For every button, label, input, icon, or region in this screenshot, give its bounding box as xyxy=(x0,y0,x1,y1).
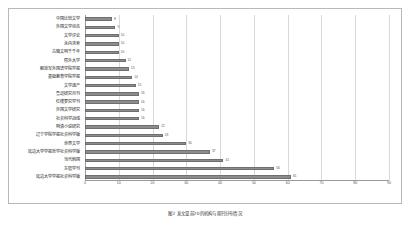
bar[interactable] xyxy=(85,134,163,137)
category-label: 当代韩国 xyxy=(64,158,80,162)
category-label: 延边大学学报社会科学版 xyxy=(36,175,80,179)
bar-row[interactable]: 15 xyxy=(85,84,389,87)
x-axis-line xyxy=(85,180,389,181)
bar-value-label: 16 xyxy=(141,117,145,120)
category-label: 文学遗产 xyxy=(64,84,80,88)
bar-value-label: 12 xyxy=(128,59,132,62)
bar-row[interactable]: 10 xyxy=(85,42,389,45)
bar-row[interactable]: 8 xyxy=(85,17,389,20)
category-label: 鲁迅研究月刊 xyxy=(56,92,80,96)
bar-row[interactable]: 41 xyxy=(85,159,389,162)
category-label: 延边大学学报哲学社会科学版 xyxy=(28,150,80,154)
x-tick-label: 70 xyxy=(319,182,323,186)
bar-value-label: 61 xyxy=(293,175,297,178)
category-label: 外国文学动态 xyxy=(56,25,80,29)
bar-value-label: 16 xyxy=(141,92,145,95)
x-tick-label: 50 xyxy=(252,182,256,186)
x-tick-label: 60 xyxy=(286,182,290,186)
bar-value-label: 13 xyxy=(131,67,135,70)
bar-row[interactable]: 12 xyxy=(85,59,389,62)
x-tick-label: 30 xyxy=(184,182,188,186)
bar[interactable] xyxy=(85,100,139,103)
x-tick-label: 90 xyxy=(387,182,391,186)
bar-value-label: 10 xyxy=(121,42,125,45)
category-label: 陨外大学 xyxy=(64,59,80,63)
bar[interactable] xyxy=(85,84,136,87)
category-label: 外国文学研究 xyxy=(56,108,80,112)
plot-area: 89101010121314151616161622233037415661 xyxy=(85,15,389,181)
category-label: 永内求索 xyxy=(64,42,80,46)
bar[interactable] xyxy=(85,175,291,178)
category-label: 文学评论 xyxy=(64,34,80,38)
bar-value-label: 15 xyxy=(138,84,142,87)
bar-row[interactable]: 16 xyxy=(85,100,389,103)
bar-value-label: 22 xyxy=(161,125,165,128)
x-tick-label: 40 xyxy=(218,182,222,186)
x-tick-label: 80 xyxy=(353,182,357,186)
bar-value-label: 37 xyxy=(212,150,216,153)
bar-row[interactable]: 61 xyxy=(85,175,389,178)
x-axis-tick-labels: 0102030405060708090 xyxy=(85,182,389,192)
bar-value-label: 10 xyxy=(121,51,125,54)
bar[interactable] xyxy=(85,42,119,45)
bar[interactable] xyxy=(85,34,119,37)
category-label: 明清小说研究 xyxy=(56,125,80,129)
bar[interactable] xyxy=(85,167,274,170)
figure: 中国比较文学外国文学动态文学评论永内求索古籍文明千千年陨外大学解放军外国语学院学… xyxy=(0,0,410,230)
bar[interactable] xyxy=(85,26,115,29)
category-label: 古籍文明千千年 xyxy=(52,50,80,54)
bar-row[interactable]: 9 xyxy=(85,26,389,29)
chart-frame: 中国比较文学外国文学动态文学评论永内求索古籍文明千千年陨外大学解放军外国语学院学… xyxy=(8,8,402,204)
bar-row[interactable]: 16 xyxy=(85,109,389,112)
bar[interactable] xyxy=(85,76,132,79)
category-label: 辽宁学院学报社会科学版 xyxy=(36,133,80,137)
bar-row[interactable]: 16 xyxy=(85,92,389,95)
bar-value-label: 56 xyxy=(276,167,280,170)
category-label: 东疆学刊 xyxy=(64,167,80,171)
bar-value-label: 23 xyxy=(165,134,169,137)
gridline xyxy=(389,15,390,181)
x-tick-label: 10 xyxy=(117,182,121,186)
bar-row[interactable]: 10 xyxy=(85,51,389,54)
bar-row[interactable]: 56 xyxy=(85,167,389,170)
bar-row[interactable]: 23 xyxy=(85,134,389,137)
bar-value-label: 30 xyxy=(188,142,192,145)
x-tick-label: 0 xyxy=(84,182,86,186)
bar[interactable] xyxy=(85,51,119,54)
bar[interactable] xyxy=(85,92,139,95)
bar-row[interactable]: 13 xyxy=(85,67,389,70)
bar-row[interactable]: 22 xyxy=(85,125,389,128)
bar-value-label: 10 xyxy=(121,34,125,37)
category-label: 社会科学战线 xyxy=(56,117,80,121)
category-label: 解放军外国语学院学报 xyxy=(40,67,80,71)
bar[interactable] xyxy=(85,125,159,128)
bar-row[interactable]: 14 xyxy=(85,76,389,79)
bar-value-label: 8 xyxy=(114,18,116,21)
bar-value-label: 16 xyxy=(141,109,145,112)
bar-value-label: 16 xyxy=(141,101,145,104)
bar[interactable] xyxy=(85,150,210,153)
category-label: 世界文学 xyxy=(64,142,80,146)
x-tick-label: 20 xyxy=(151,182,155,186)
bar-row[interactable]: 30 xyxy=(85,142,389,145)
bar-value-label: 41 xyxy=(225,159,229,162)
bar[interactable] xyxy=(85,142,186,145)
bar[interactable] xyxy=(85,17,112,20)
bar[interactable] xyxy=(85,67,129,70)
bar-row[interactable]: 10 xyxy=(85,34,389,37)
bar[interactable] xyxy=(85,109,139,112)
category-axis-labels: 中国比较文学外国文学动态文学评论永内求索古籍文明千千年陨外大学解放军外国语学院学… xyxy=(9,15,83,181)
category-label: 中国比较文学 xyxy=(56,17,80,21)
bar-value-label: 9 xyxy=(117,26,119,29)
bar[interactable] xyxy=(85,117,139,120)
figure-caption: 图2 发文量前20的机构与期刊分布情况 xyxy=(0,210,410,216)
bar-series: 89101010121314151616161622233037415661 xyxy=(85,15,389,181)
category-label: 基础教育学院学报 xyxy=(48,75,80,79)
bar-row[interactable]: 16 xyxy=(85,117,389,120)
bar[interactable] xyxy=(85,59,126,62)
category-label: 红楼梦究学刊 xyxy=(56,100,80,104)
bar[interactable] xyxy=(85,159,223,162)
bar-row[interactable]: 37 xyxy=(85,150,389,153)
bar-value-label: 14 xyxy=(134,76,138,79)
